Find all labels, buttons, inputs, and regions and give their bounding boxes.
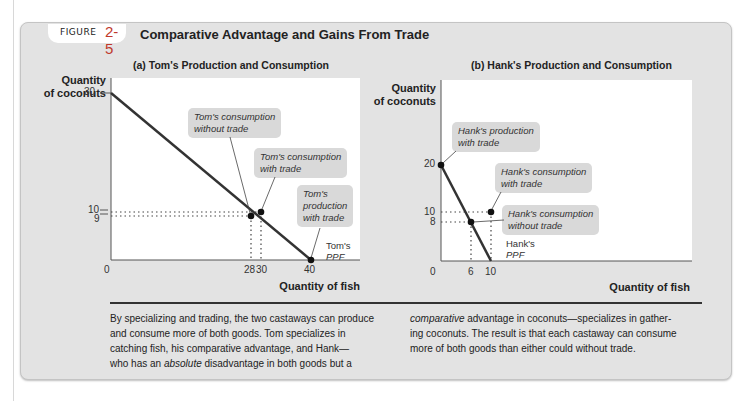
hank-ppf-line bbox=[441, 165, 491, 261]
caption-emphasis: comparative bbox=[410, 313, 464, 324]
hank-point-consumption-without-trade bbox=[468, 219, 475, 226]
caption-text: disadvantage in both goods but a bbox=[202, 358, 352, 369]
caption-line: who has an absolute disadvantage in both… bbox=[110, 356, 400, 371]
tom-point-consumption-with-trade bbox=[258, 209, 265, 216]
caption-line: comparative advantage in coconuts—specia… bbox=[410, 311, 710, 326]
caption-text: advantage in coconuts—specializes in gat… bbox=[464, 313, 671, 324]
caption-right: comparative advantage in coconuts—specia… bbox=[410, 311, 710, 356]
caption-text: who has an bbox=[110, 358, 164, 369]
caption-line: ing coconuts. The result is that each ca… bbox=[410, 326, 710, 341]
caption-line: catching fish, his comparative advantage… bbox=[110, 341, 400, 356]
caption-divider bbox=[110, 302, 702, 304]
caption-line: By specializing and trading, the two cas… bbox=[110, 311, 400, 326]
hank-point-production-with-trade bbox=[438, 162, 445, 169]
tom-point-production-with-trade bbox=[308, 257, 315, 264]
caption-line: and consume more of both goods. Tom spec… bbox=[110, 326, 400, 341]
tom-point-consumption-without-trade bbox=[248, 213, 255, 220]
tom-ppf-line bbox=[111, 93, 311, 260]
caption-left: By specializing and trading, the two cas… bbox=[110, 311, 400, 371]
caption-emphasis: absolute bbox=[164, 358, 202, 369]
caption-line: more of both goods than either could wit… bbox=[410, 341, 710, 356]
hank-point-consumption-with-trade bbox=[488, 209, 495, 216]
